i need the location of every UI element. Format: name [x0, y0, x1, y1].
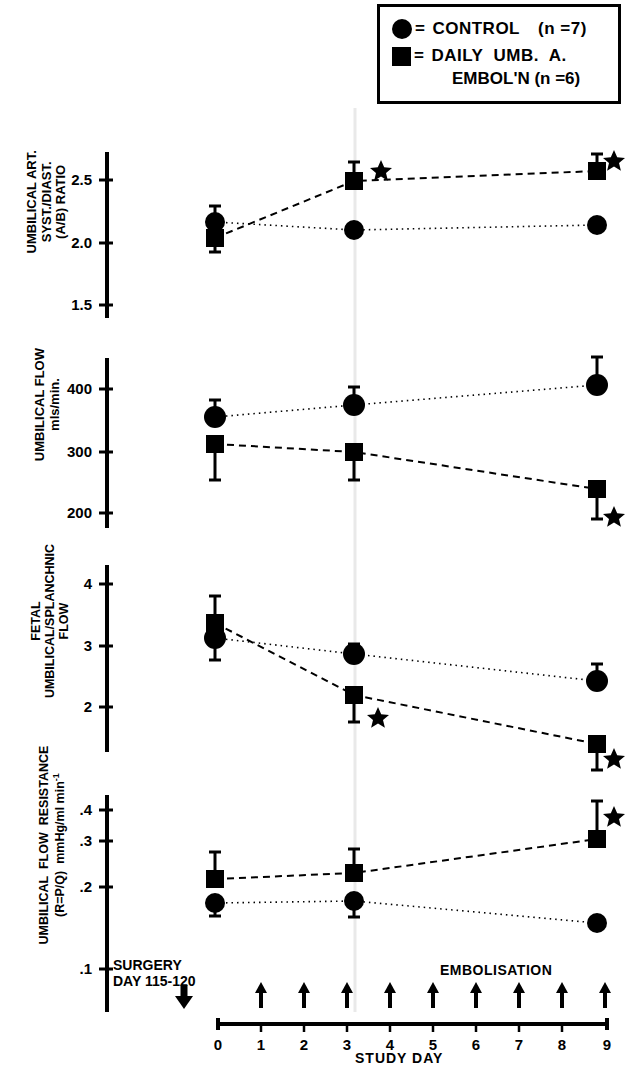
ytick-p1-2: 1.5 — [48, 296, 92, 313]
panel-3-embolisation-line — [215, 623, 597, 744]
xtick-7: 7 — [509, 1036, 529, 1053]
surgery-label-line2: DAY 115-120 — [113, 973, 196, 991]
ytick-p1-1: 2.0 — [48, 234, 92, 251]
ytick-p2-0: 400 — [48, 380, 92, 397]
significance-star-icon — [603, 748, 625, 769]
panel-2-markers — [204, 357, 625, 527]
panel-4-control-line — [215, 901, 597, 923]
figure-canvas: = CONTROL (n =7) = DAILY UMB. A. EMBOL'N… — [0, 0, 626, 1067]
panel-2-axis — [99, 358, 113, 528]
embolisation-arrow-day-8 — [556, 982, 568, 1008]
embolisation-label: EMBOLISATION — [440, 962, 552, 980]
xtick-6: 6 — [466, 1036, 486, 1053]
xtick-1: 1 — [251, 1036, 271, 1053]
x-axis — [218, 1018, 607, 1032]
panel-3-axis — [99, 565, 113, 752]
embolisation-arrow-day-2 — [298, 982, 310, 1008]
xtick-0: 0 — [208, 1036, 228, 1053]
panel-4-markers — [205, 801, 625, 933]
xtick-2: 2 — [294, 1036, 314, 1053]
embolisation-arrow-day-9 — [599, 982, 611, 1008]
surgery-label-line1: SURGERY — [113, 957, 182, 975]
embolisation-arrow-day-3 — [341, 982, 353, 1008]
ytick-p4-3: .1 — [48, 960, 92, 977]
ytick-p4-1: .3 — [48, 832, 92, 849]
embolisation-arrow-day-4 — [384, 982, 396, 1008]
significance-star-icon — [603, 806, 625, 827]
embolisation-arrow-day-1 — [255, 982, 267, 1008]
xaxis-title: STUDY DAY — [355, 1050, 443, 1067]
ytick-p4-0: .4 — [48, 801, 92, 818]
ytick-p4-2: .2 — [48, 878, 92, 895]
significance-star-icon — [603, 150, 625, 171]
panel-2-control-line — [215, 385, 597, 417]
panel-1-embolisation-line — [215, 171, 597, 238]
plot-area — [0, 0, 626, 1067]
panel-4-embolisation-line — [215, 839, 597, 879]
panel-3-control-line — [215, 638, 597, 681]
xtick-9: 9 — [597, 1036, 617, 1053]
ytick-p2-1: 300 — [48, 443, 92, 460]
embolisation-arrow-day-5 — [427, 982, 439, 1008]
embolisation-arrow-day-6 — [470, 982, 482, 1008]
panel-1-control-line — [215, 222, 597, 230]
panel-2-embolisation-line — [215, 444, 597, 489]
panel-1-markers — [205, 150, 625, 252]
ytick-p3-2: 2 — [48, 698, 92, 715]
panel-1-axis — [99, 152, 113, 318]
xtick-3: 3 — [337, 1036, 357, 1053]
panel-4-axis — [99, 795, 113, 1012]
xtick-8: 8 — [552, 1036, 572, 1053]
ytick-p2-2: 200 — [48, 504, 92, 521]
panel-3-markers — [204, 596, 625, 770]
embolisation-arrows — [255, 982, 611, 1008]
ytick-p1-0: 2.5 — [48, 171, 92, 188]
significance-star-icon — [370, 160, 392, 181]
ytick-p3-0: 4 — [48, 575, 92, 592]
significance-star-icon — [603, 506, 625, 527]
embolisation-arrow-day-7 — [513, 982, 525, 1008]
significance-star-icon — [367, 707, 389, 728]
ytick-p3-1: 3 — [48, 637, 92, 654]
